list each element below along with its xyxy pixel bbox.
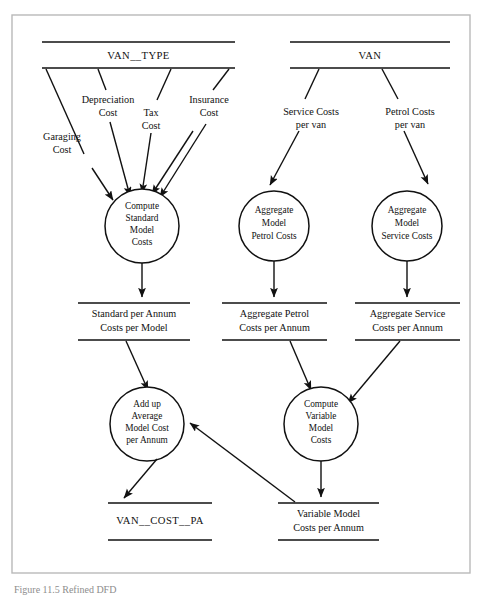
diagram-frame <box>12 15 470 573</box>
flow-lines-row1-to-stores <box>142 261 407 297</box>
process-compute-variable-line3: Model <box>309 423 334 433</box>
process-aggregate-service-line1: Aggregate <box>388 205 427 215</box>
store-van: VAN <box>290 42 450 68</box>
store-aggregate-service: Aggregate Service Costs per Annum <box>355 303 460 340</box>
flow-label-service-costs: Service Costs per van <box>283 106 339 130</box>
process-add-up-average: Add up Average Model Cost per Annum <box>110 387 184 461</box>
flow-label-insurance-line2: Cost <box>200 107 219 118</box>
process-compute-standard: Compute Standard Model Costs <box>105 189 179 263</box>
store-van-type: VAN__TYPE <box>42 42 235 68</box>
store-aggregate-petrol-line1: Aggregate Petrol <box>240 308 309 319</box>
flow-label-tax: Tax Cost <box>142 107 161 131</box>
flow-label-garaging-line1: Garaging <box>43 131 81 142</box>
store-aggregate-service-line1: Aggregate Service <box>370 308 446 319</box>
process-aggregate-service-line3: Service Costs <box>382 231 433 241</box>
store-standard-per-annum: Standard per Annum Costs per Model <box>78 303 190 340</box>
flow-label-tax-line2: Cost <box>142 120 161 131</box>
store-aggregate-service-line2: Costs per Annum <box>372 322 443 333</box>
process-compute-variable-line4: Costs <box>311 435 332 445</box>
process-aggregate-service: Aggregate Model Service Costs <box>372 191 442 261</box>
flow-label-depreciation-line1: Depreciation <box>82 94 135 105</box>
flow-label-petrol-costs: Petrol Costs per van <box>385 106 435 130</box>
flow-label-garaging-line2: Cost <box>53 144 72 155</box>
process-compute-standard-line2: Standard <box>125 213 158 223</box>
process-add-up-average-line2: Average <box>132 411 163 421</box>
flow-label-insurance: Insurance Cost <box>189 94 229 118</box>
process-aggregate-petrol-line1: Aggregate <box>255 205 294 215</box>
flow-label-service-costs-line1: Service Costs <box>283 106 339 117</box>
figure-caption: Figure 11.5 Refined DFD <box>14 584 116 595</box>
process-compute-variable: Compute Variable Model Costs <box>284 387 358 461</box>
process-aggregate-petrol-line3: Petrol Costs <box>251 231 297 241</box>
process-add-up-average-line3: Model Cost <box>125 423 169 433</box>
store-standard-per-annum-line1: Standard per Annum <box>92 308 176 319</box>
process-aggregate-service-line2: Model <box>395 218 420 228</box>
process-add-up-average-line4: per Annum <box>126 435 168 445</box>
process-compute-standard-line4: Costs <box>132 237 153 247</box>
process-compute-standard-line1: Compute <box>125 201 159 211</box>
flow-label-insurance-line1: Insurance <box>189 94 229 105</box>
store-aggregate-petrol-line2: Costs per Annum <box>239 322 310 333</box>
flow-label-tax-line1: Tax <box>143 107 158 118</box>
store-variable-model: Variable Model Costs per Annum <box>278 503 379 540</box>
store-standard-per-annum-line2: Costs per Model <box>100 322 168 333</box>
flow-label-service-costs-line2: per van <box>296 119 326 130</box>
store-van-cost-pa-label: VAN__COST__PA <box>116 515 204 526</box>
store-van-cost-pa: VAN__COST__PA <box>108 503 212 540</box>
process-add-up-average-line1: Add up <box>133 399 161 409</box>
store-van-type-label: VAN__TYPE <box>107 50 169 61</box>
flow-label-garaging: Garaging Cost <box>43 131 81 155</box>
store-variable-model-line2: Costs per Annum <box>293 522 364 533</box>
flow-label-depreciation: Depreciation Cost <box>82 94 135 118</box>
process-compute-variable-line1: Compute <box>304 399 338 409</box>
store-van-label: VAN <box>359 50 382 61</box>
process-aggregate-petrol-line2: Model <box>262 218 287 228</box>
process-compute-variable-line2: Variable <box>306 411 337 421</box>
store-aggregate-petrol: Aggregate Petrol Costs per Annum <box>222 303 327 340</box>
flow-label-depreciation-line2: Cost <box>99 107 118 118</box>
process-aggregate-petrol: Aggregate Model Petrol Costs <box>239 191 309 261</box>
flow-label-petrol-costs-line1: Petrol Costs <box>385 106 435 117</box>
process-compute-standard-line3: Model <box>130 225 155 235</box>
flow-label-petrol-costs-line2: per van <box>395 119 425 130</box>
store-variable-model-line1: Variable Model <box>297 508 360 519</box>
